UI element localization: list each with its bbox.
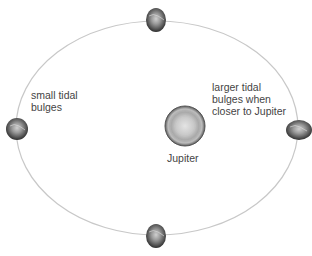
moon-left: [6, 118, 28, 140]
jupiter-planet: [165, 106, 205, 146]
moon-top: [146, 8, 166, 32]
annotation-line: closer to Jupiter: [212, 105, 286, 117]
annotation-line: larger tidal: [212, 81, 286, 93]
moon-bottom: [146, 224, 166, 248]
annotation-line: bulges: [31, 101, 78, 113]
jupiter-label: Jupiter: [167, 152, 199, 164]
orbit-diagram: [0, 0, 312, 256]
small-tidal-bulges-annotation: small tidal bulges: [31, 89, 78, 113]
moon-right: [286, 120, 312, 140]
annotation-line: bulges when: [212, 93, 286, 105]
annotation-line: small tidal: [31, 89, 78, 101]
larger-tidal-bulges-annotation: larger tidal bulges when closer to Jupit…: [212, 81, 286, 117]
orbit-path: [16, 21, 298, 235]
